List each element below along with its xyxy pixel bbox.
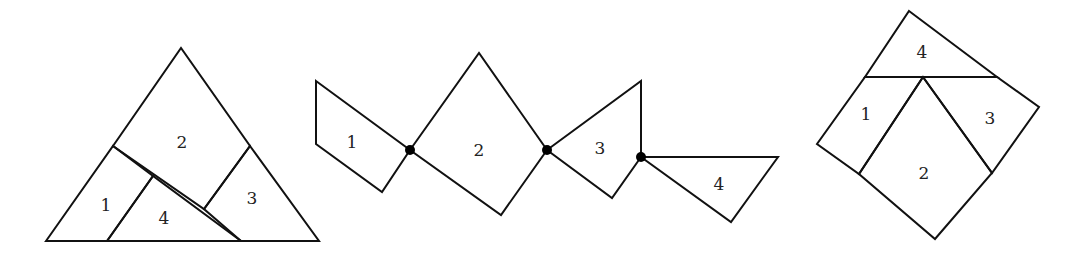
piece-label: 2 xyxy=(919,163,930,183)
piece-label: 4 xyxy=(917,42,928,62)
piece-1 xyxy=(316,81,410,192)
figure-hinged-chain: 1234 xyxy=(316,53,778,222)
piece-label: 1 xyxy=(861,104,872,124)
piece-label: 3 xyxy=(595,138,606,158)
piece-2 xyxy=(859,77,992,239)
piece-1 xyxy=(817,77,923,174)
piece-2 xyxy=(410,53,547,215)
piece-label: 4 xyxy=(714,174,725,194)
piece-label: 1 xyxy=(101,195,112,215)
hinge-point-icon xyxy=(542,145,552,155)
dissection-diagram: 1234 1234 4123 xyxy=(0,0,1080,260)
figure-square: 4123 xyxy=(817,11,1039,239)
piece-label: 4 xyxy=(159,208,170,228)
piece-2 xyxy=(113,48,250,209)
piece-1 xyxy=(46,146,153,241)
hinge-point-icon xyxy=(636,152,646,162)
piece-label: 1 xyxy=(347,132,358,152)
figure-triangle: 1234 xyxy=(46,48,319,241)
piece-label: 2 xyxy=(474,140,485,160)
piece-3 xyxy=(923,77,1039,173)
piece-label: 2 xyxy=(177,132,188,152)
piece-4 xyxy=(865,11,997,77)
piece-label: 3 xyxy=(985,108,996,128)
piece-label: 3 xyxy=(247,188,258,208)
hinge-point-icon xyxy=(405,145,415,155)
piece-4 xyxy=(641,157,778,222)
